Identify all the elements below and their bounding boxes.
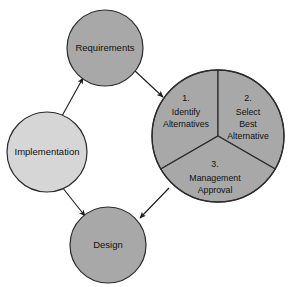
arrow-requirements-to-pie: [134, 70, 163, 97]
pie-segment-3-line-2: Approval: [198, 185, 233, 195]
diagram-canvas: 1. Identify Alternatives 2. Select Best …: [0, 0, 289, 287]
arrow-implementation-to-requirements: [62, 78, 83, 116]
node-implementation[interactable]: Implementation: [7, 112, 87, 192]
arrow-implementation-to-design: [62, 187, 85, 216]
pie-segment-3-line-1: Management: [189, 173, 241, 183]
pie-segment-3-number: 3.: [211, 159, 218, 169]
diagram-container: 1. Identify Alternatives 2. Select Best …: [0, 0, 289, 287]
pie-segment-1-line-1: Identify: [172, 107, 201, 117]
pie-segment-2-number: 2.: [244, 93, 251, 103]
node-requirements[interactable]: Requirements: [67, 10, 143, 86]
requirements-label: Requirements: [75, 42, 134, 53]
decision-pie[interactable]: 1. Identify Alternatives 2. Select Best …: [152, 70, 284, 202]
design-label: Design: [93, 239, 123, 250]
node-design[interactable]: Design: [70, 207, 146, 283]
pie-segment-1-line-2: Alternatives: [163, 119, 210, 129]
pie-segment-2-line-1: Select: [236, 107, 261, 117]
pie-segment-2-line-3: Alternative: [227, 131, 269, 141]
arrow-pie-to-design: [140, 188, 169, 218]
pie-segment-2-line-2: Best: [239, 119, 257, 129]
implementation-label: Implementation: [15, 146, 80, 157]
pie-segment-1-number: 1.: [182, 93, 189, 103]
